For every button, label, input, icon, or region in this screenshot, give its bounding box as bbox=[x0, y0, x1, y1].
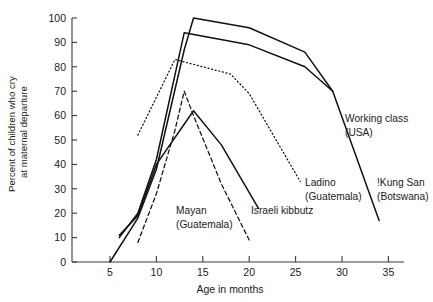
annotation-mayan-line2: (Guatemala) bbox=[176, 219, 233, 230]
chart-container: Percent of children who cry at maternal … bbox=[0, 0, 433, 302]
annotation-working-class-line1: Working class bbox=[345, 113, 408, 124]
annotation-kung-san-line2: (Botswana) bbox=[377, 191, 429, 202]
y-tick-label: 0 bbox=[60, 256, 66, 268]
y-tick-label: 80 bbox=[54, 61, 66, 73]
y-tick-label: 20 bbox=[54, 207, 66, 219]
annotation-mayan-line1: Mayan bbox=[176, 205, 207, 216]
y-axis-title-line2: at maternal departure bbox=[18, 86, 29, 178]
x-tick-label: 25 bbox=[290, 266, 302, 278]
x-tick-label: 30 bbox=[336, 266, 348, 278]
y-tick-label: 30 bbox=[54, 183, 66, 195]
annotation-working-class-line2: (USA) bbox=[345, 127, 373, 138]
x-tick-label: 15 bbox=[197, 266, 209, 278]
y-tick-label: 10 bbox=[54, 231, 66, 243]
series-line-ladino bbox=[138, 59, 300, 181]
annotation-israeli-kibbutz: Israeli kibbutz bbox=[251, 205, 313, 216]
y-tick-label: 60 bbox=[54, 109, 66, 121]
y-axis-tick-labels: 0 10 20 30 40 50 60 70 80 90 100 bbox=[48, 12, 66, 268]
y-tick-label: 40 bbox=[54, 158, 66, 170]
series-line-kung-san bbox=[119, 33, 379, 238]
cry-percentage-line-chart: Percent of children who cry at maternal … bbox=[0, 0, 433, 302]
y-tick-label: 100 bbox=[48, 12, 66, 24]
y-axis-title: Percent of children who cry at maternal … bbox=[6, 76, 29, 192]
y-axis-title-line1: Percent of children who cry bbox=[6, 76, 17, 192]
y-tick-label: 70 bbox=[54, 85, 66, 97]
x-axis-ticks bbox=[110, 256, 388, 262]
x-tick-label: 20 bbox=[243, 266, 255, 278]
series-group bbox=[110, 18, 379, 262]
x-tick-label: 5 bbox=[107, 266, 113, 278]
x-tick-label: 35 bbox=[383, 266, 395, 278]
annotation-working-class: Working class (USA) bbox=[345, 113, 408, 138]
annotation-kung-san: !Kung San (Botswana) bbox=[377, 177, 429, 202]
y-tick-label: 90 bbox=[54, 36, 66, 48]
y-tick-label: 50 bbox=[54, 134, 66, 146]
annotation-israeli-kibbutz-line1: Israeli kibbutz bbox=[251, 205, 313, 216]
annotation-mayan: Mayan (Guatemala) bbox=[176, 205, 233, 230]
annotation-kung-san-line1: !Kung San bbox=[377, 177, 425, 188]
x-axis-title: Age in months bbox=[196, 283, 263, 295]
y-axis-ticks bbox=[72, 18, 77, 262]
x-tick-label: 10 bbox=[151, 266, 163, 278]
annotation-ladino-line2: (Guatemala) bbox=[305, 191, 362, 202]
x-axis-tick-labels: 5 10 15 20 25 30 35 bbox=[107, 266, 394, 278]
annotation-ladino: Ladino (Guatemala) bbox=[305, 177, 362, 202]
annotation-ladino-line1: Ladino bbox=[305, 177, 336, 188]
